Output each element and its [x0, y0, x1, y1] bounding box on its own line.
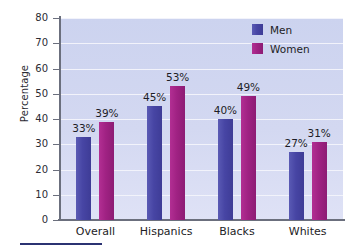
bar-value-label: 53%: [158, 71, 198, 83]
y-axis-tick-label: 70: [8, 37, 48, 48]
bar-value-label: 45%: [135, 91, 175, 103]
bar-value-label: 40%: [205, 104, 245, 116]
bar-value-label: 49%: [228, 81, 268, 93]
bar-chart-figure: Percentage Men Women 8070605040302010033…: [0, 0, 356, 251]
x-axis-category-whites: Whites: [263, 225, 353, 238]
y-axis-tick: [53, 119, 59, 120]
gridline: [60, 18, 343, 19]
bar-value-label: 39%: [87, 107, 127, 119]
y-axis-tick-label: 20: [8, 164, 48, 175]
bar-whites-women: [312, 142, 327, 220]
legend-item-men: Men: [252, 23, 310, 36]
legend-label-women: Women: [270, 43, 310, 55]
legend-item-women: Women: [252, 42, 310, 55]
bar-value-label: 31%: [299, 127, 339, 139]
y-axis-tick-label: 80: [8, 12, 48, 23]
bar-value-label: 33%: [64, 122, 104, 134]
legend-label-men: Men: [270, 24, 292, 36]
y-axis-line: [59, 16, 61, 221]
y-axis-tick: [53, 195, 59, 196]
bar-blacks-men: [218, 119, 233, 220]
y-axis-tick: [53, 144, 59, 145]
chart-legend: Men Women: [252, 23, 310, 55]
footer-rule: [20, 243, 102, 245]
y-axis-tick: [53, 43, 59, 44]
y-axis-tick-label: 60: [8, 63, 48, 74]
bar-hispanics-women: [170, 86, 185, 220]
y-axis-tick: [53, 170, 59, 171]
y-axis-tick-label: 40: [8, 113, 48, 124]
bar-overall-men: [76, 137, 91, 220]
legend-swatch-women-icon: [252, 43, 263, 54]
y-axis-tick: [53, 69, 59, 70]
y-axis-tick-label: 10: [8, 189, 48, 200]
gridline: [60, 119, 343, 120]
gridline: [60, 94, 343, 95]
bar-whites-men: [289, 152, 304, 220]
y-axis-tick-label: 30: [8, 138, 48, 149]
y-axis-tick-label: 0: [8, 214, 48, 225]
y-axis-tick: [53, 94, 59, 95]
gridline: [60, 69, 343, 70]
legend-swatch-men-icon: [252, 24, 263, 35]
bar-blacks-women: [241, 96, 256, 220]
y-axis-tick: [53, 220, 59, 221]
bar-hispanics-men: [147, 106, 162, 220]
y-axis-tick: [53, 18, 59, 19]
y-axis-tick-label: 50: [8, 88, 48, 99]
bar-overall-women: [99, 122, 114, 220]
